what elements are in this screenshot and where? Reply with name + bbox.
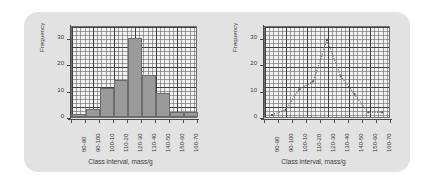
x-category-label: 100-10 <box>302 133 308 152</box>
x-tick <box>306 119 307 123</box>
polygon-series-line <box>265 27 389 118</box>
x-category-label: 150-60 <box>372 133 378 152</box>
x-tick <box>85 119 86 123</box>
polygon-data-point <box>367 111 369 113</box>
y-tick-label: 30 <box>44 34 64 40</box>
polygon-data-point <box>285 109 287 111</box>
y-tick: 20 <box>260 65 264 66</box>
x-tick <box>334 119 335 123</box>
x-category-label: 100-10 <box>109 133 115 152</box>
x-tick <box>169 119 170 123</box>
polygon-x-axis-title: Class interval, mass/g <box>217 158 410 165</box>
histogram-bar <box>86 109 100 117</box>
x-category-label: 110-20 <box>123 134 129 152</box>
polygon-data-point <box>298 88 300 90</box>
x-tick <box>197 119 198 123</box>
x-category-label: 140-50 <box>358 133 364 152</box>
histogram-bar <box>142 75 156 117</box>
x-tick <box>113 119 114 123</box>
polygon-data-point <box>354 93 356 95</box>
x-tick <box>183 119 184 123</box>
x-category-label: 130-40 <box>344 133 350 152</box>
x-category-label: 80-90 <box>274 137 280 152</box>
screenshot-root: Frequency 0102030 80-9090-100100-10110-2… <box>0 0 434 184</box>
polygon-data-point <box>312 80 314 82</box>
x-category-label: 80-90 <box>81 137 87 152</box>
x-tick <box>348 119 349 123</box>
x-category-label: 160-70 <box>193 133 199 152</box>
figure-panel: Frequency 0102030 80-9090-100100-10110-2… <box>24 12 410 172</box>
histogram-bars <box>72 27 196 117</box>
x-tick <box>320 119 321 123</box>
y-tick: 10 <box>260 92 264 93</box>
polygon-data-point <box>326 39 328 41</box>
x-tick <box>99 119 100 123</box>
x-category-label: 110-20 <box>316 134 322 152</box>
histogram-x-axis <box>68 119 199 120</box>
x-tick <box>71 119 72 123</box>
x-tick <box>362 119 363 123</box>
x-category-label: 140-50 <box>165 133 171 152</box>
x-category-label: 120-30 <box>137 133 143 152</box>
histogram-bar <box>184 112 198 117</box>
histogram-bar <box>114 80 128 117</box>
y-tick-label: 0 <box>237 113 257 119</box>
histogram-bar <box>156 93 170 117</box>
y-tick: 30 <box>260 39 264 40</box>
polygon-data-point <box>381 111 383 113</box>
y-tick-label: 10 <box>44 87 64 93</box>
y-tick-label: 10 <box>237 87 257 93</box>
x-category-label: 160-70 <box>386 133 392 152</box>
polygon-data-point <box>271 114 273 116</box>
y-tick: 30 <box>67 39 71 40</box>
polygon-path <box>272 40 382 115</box>
x-tick <box>292 119 293 123</box>
x-tick <box>155 119 156 123</box>
x-tick <box>390 119 391 123</box>
x-tick <box>264 119 265 123</box>
y-tick-label: 20 <box>44 60 64 66</box>
histogram-plot-area <box>71 26 197 118</box>
x-category-label: 150-60 <box>179 133 185 152</box>
histogram-bar <box>100 88 114 117</box>
y-tick: 10 <box>67 92 71 93</box>
x-tick <box>376 119 377 123</box>
histogram-x-axis-title: Class interval, mass/g <box>24 158 217 165</box>
x-tick <box>127 119 128 123</box>
histogram-bar <box>170 112 184 117</box>
frequency-polygon-figure: Frequency 0102030 80-9090-100100-10110-2… <box>217 12 410 172</box>
x-category-label: 90-100 <box>288 133 294 152</box>
histogram-bar <box>72 114 86 117</box>
polygon-data-point <box>340 75 342 77</box>
polygon-x-axis <box>261 119 392 120</box>
x-category-label: 130-40 <box>151 133 157 152</box>
y-tick-label: 20 <box>237 60 257 66</box>
x-tick <box>141 119 142 123</box>
x-tick <box>278 119 279 123</box>
y-tick-label: 30 <box>237 34 257 40</box>
x-category-label: 120-30 <box>330 133 336 152</box>
y-tick: 20 <box>67 65 71 66</box>
polygon-plot-area <box>264 26 390 118</box>
histogram-bar <box>128 38 142 117</box>
histogram-figure: Frequency 0102030 80-9090-100100-10110-2… <box>24 12 217 172</box>
y-tick-label: 0 <box>44 113 64 119</box>
x-category-label: 90-100 <box>95 133 101 152</box>
